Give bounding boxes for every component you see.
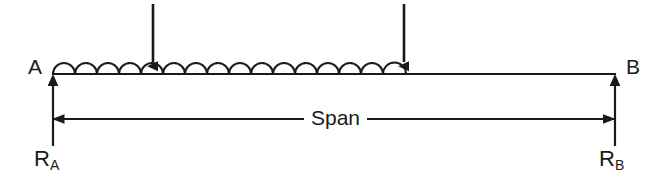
udl-arc — [295, 63, 317, 74]
udl-arc — [75, 63, 97, 74]
udl-arc — [163, 63, 185, 74]
udl-arc — [339, 63, 361, 74]
udl-arc — [361, 63, 383, 74]
reaction-label-b: RB — [599, 148, 624, 170]
udl-arc — [251, 63, 273, 74]
udl-arc — [383, 63, 406, 75]
udl-arc — [185, 63, 207, 74]
udl-arc — [229, 63, 251, 74]
udl-arcs-group — [53, 63, 406, 75]
udl-arc — [53, 63, 75, 74]
support-label-b: B — [626, 56, 640, 77]
reaction-label-a-subscript: A — [50, 157, 59, 173]
reaction-arrow-b-head — [610, 74, 621, 86]
beam-loading-diagram: A B Span RA RB — [0, 0, 663, 178]
udl-arc — [97, 63, 119, 74]
udl-arc — [141, 63, 163, 74]
reaction-label-a: RA — [34, 148, 59, 170]
udl-arc — [119, 63, 141, 74]
udl-arc — [273, 63, 295, 74]
reaction-label-b-main: R — [599, 146, 615, 171]
reaction-label-a-main: R — [34, 146, 50, 171]
udl-arc — [317, 63, 339, 74]
udl-arc — [207, 63, 229, 74]
beam-diagram-canvas — [0, 0, 663, 178]
support-label-a: A — [28, 56, 42, 77]
reaction-label-b-subscript: B — [615, 157, 624, 173]
reaction-arrow-a-head — [48, 74, 59, 86]
span-label: Span — [304, 107, 367, 128]
